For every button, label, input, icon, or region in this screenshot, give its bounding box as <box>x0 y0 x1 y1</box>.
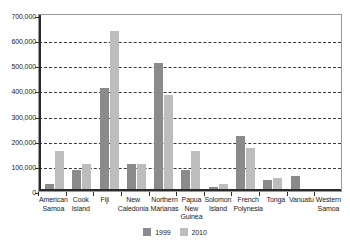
x-axis-label-line: New <box>118 196 149 205</box>
bar-1999[interactable] <box>209 187 218 190</box>
y-tick-label: 300,000 <box>0 113 36 120</box>
y-tick-label: 700,000 <box>0 13 36 20</box>
y-tick-label: 600,000 <box>0 38 36 45</box>
bar-group <box>314 15 341 189</box>
y-tick-mark <box>35 67 39 68</box>
x-axis-label: NewCaledonia <box>117 196 150 222</box>
bar-2010[interactable] <box>191 151 200 189</box>
legend-label: 1999 <box>155 229 170 236</box>
x-axis-label: Vanuatu <box>288 196 315 222</box>
x-axis-label-line: Samoa <box>39 205 68 214</box>
bar-chart: 700,000600,000500,000400,000300,000200,0… <box>0 0 350 250</box>
legend-label: 2010 <box>192 229 207 236</box>
bar-1999[interactable] <box>72 170 81 189</box>
x-axis-label-line: New <box>180 205 202 214</box>
bars-layer <box>41 15 341 189</box>
y-tick-label: 0 <box>0 189 36 196</box>
legend-item[interactable]: 1999 <box>143 228 170 236</box>
x-axis-label: WesternSamoa <box>315 196 342 222</box>
y-tick-label: 100,000 <box>0 163 36 170</box>
legend-swatch-icon <box>143 228 151 236</box>
x-axis-label-line: Cook <box>70 196 92 205</box>
y-tick-mark <box>35 17 39 18</box>
bar-2010[interactable] <box>110 31 119 189</box>
x-axis-label: FrenchPolynesia <box>232 196 263 222</box>
legend-item[interactable]: 2010 <box>180 228 207 236</box>
bar-group <box>123 15 150 189</box>
bar-1999[interactable] <box>181 170 190 189</box>
x-axis-label: Fiji <box>93 196 117 222</box>
bar-group <box>232 15 259 189</box>
bar-1999[interactable] <box>154 63 163 189</box>
bar-group <box>177 15 204 189</box>
y-tick-mark <box>35 143 39 144</box>
x-axis-label-line: Island <box>70 205 92 214</box>
bar-2010[interactable] <box>246 148 255 189</box>
x-axis-label-line: French <box>233 196 262 205</box>
x-axis-labels: AmericanSamoaCookIslandFijiNewCaledoniaN… <box>38 196 342 222</box>
y-tick-mark <box>35 168 39 169</box>
bar-group <box>205 15 232 189</box>
bar-1999[interactable] <box>100 88 109 189</box>
x-axis-label: CookIsland <box>69 196 93 222</box>
x-axis-label-line: Guinea <box>180 213 202 222</box>
y-tick-mark <box>35 42 39 43</box>
y-tick-label: 400,000 <box>0 88 36 95</box>
bar-group <box>68 15 95 189</box>
x-axis-label-line: American <box>39 196 68 205</box>
x-axis-label-line: Samoa <box>316 205 341 214</box>
x-axis-label: SolomonIsland <box>203 196 232 222</box>
bar-1999[interactable] <box>45 184 54 189</box>
legend-swatch-icon <box>180 228 188 236</box>
bar-1999[interactable] <box>263 180 272 189</box>
bar-group <box>259 15 286 189</box>
y-tick-mark <box>35 92 39 93</box>
x-axis-label-line: Western <box>316 196 341 205</box>
bar-group <box>41 15 68 189</box>
x-axis-label: Tonga <box>264 196 288 222</box>
y-tick-label: 500,000 <box>0 63 36 70</box>
bar-2010[interactable] <box>82 164 91 189</box>
bar-2010[interactable] <box>164 95 173 189</box>
x-axis-label: AmericanSamoa <box>38 196 69 222</box>
y-tick-label: 200,000 <box>0 138 36 145</box>
x-axis-label-line: Island <box>204 205 231 214</box>
bar-group <box>150 15 177 189</box>
x-axis-label-line: Caledonia <box>118 205 149 214</box>
x-axis-label: PapuaNewGuinea <box>179 196 203 222</box>
x-axis-label-line: Vanuatu <box>289 196 314 205</box>
bar-2010[interactable] <box>273 178 282 189</box>
x-axis-line <box>39 189 341 191</box>
chart-legend: 19992010 <box>0 228 350 236</box>
x-axis-label-line: Polynesia <box>233 205 262 214</box>
x-axis-label-line: Tonga <box>265 196 287 205</box>
x-axis-label-line: Marianas <box>150 205 178 214</box>
bar-2010[interactable] <box>55 151 64 189</box>
bar-group <box>286 15 313 189</box>
y-tick-mark <box>35 118 39 119</box>
x-axis-label-line: Northern <box>150 196 178 205</box>
x-axis-label-line: Fiji <box>94 196 116 205</box>
bar-1999[interactable] <box>127 164 136 189</box>
bar-2010[interactable] <box>137 164 146 189</box>
plot-area <box>38 14 342 192</box>
bar-2010[interactable] <box>219 184 228 189</box>
bar-1999[interactable] <box>236 136 245 189</box>
x-axis-label-line: Solomon <box>204 196 231 205</box>
x-axis-label-line: Papua <box>180 196 202 205</box>
bar-1999[interactable] <box>291 176 300 189</box>
x-axis-label: NorthernMarianas <box>149 196 179 222</box>
bar-group <box>96 15 123 189</box>
